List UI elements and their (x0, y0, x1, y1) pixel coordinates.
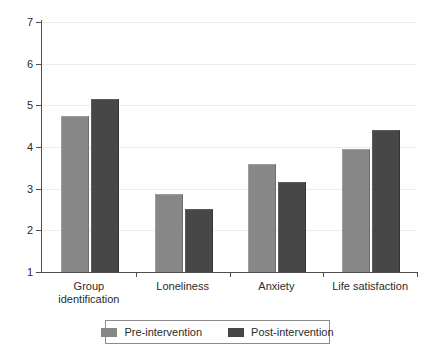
x-axis-label-loneliness: Loneliness (136, 280, 230, 293)
x-tick-mark-3 (417, 273, 418, 277)
y-tick-mark-4 (36, 147, 41, 148)
bar-group-identification-pre-intervention (61, 116, 89, 272)
x-axis-label-life-satisfaction: Life satisfaction (323, 280, 417, 293)
y-tick-label-7: 7 (3, 17, 33, 28)
x-axis-label-group-identification: Group identification (42, 280, 136, 306)
plot-area (42, 22, 417, 272)
legend-entry-pre-intervention: Pre-intervention (101, 327, 202, 338)
bar-life-satisfaction-pre-intervention (342, 149, 370, 272)
bar-life-satisfaction-post-intervention (372, 130, 400, 272)
legend-entry-post-intervention: Post-intervention (228, 327, 334, 338)
pre-intervention-swatch-icon (101, 328, 117, 337)
y-tick-mark-6 (36, 64, 41, 65)
x-tick-mark-0 (136, 273, 137, 277)
y-tick-label-4: 4 (3, 142, 33, 153)
y-tick-label-1: 1 (3, 267, 33, 278)
y-tick-mark-5 (36, 105, 41, 106)
post-intervention-swatch-icon (228, 328, 244, 337)
bar-loneliness-post-intervention (185, 209, 213, 273)
x-tick-mark-1 (230, 273, 231, 277)
bar-group-identification-post-intervention (91, 99, 119, 272)
y-tick-mark-1 (36, 272, 41, 273)
y-tick-label-6: 6 (3, 58, 33, 69)
y-tick-label-3: 3 (3, 183, 33, 194)
y-tick-mark-2 (36, 230, 41, 231)
bar-group-anxiety (248, 22, 304, 272)
bar-loneliness-pre-intervention (155, 194, 183, 272)
legend-label-pre-intervention: Pre-intervention (124, 327, 202, 338)
x-tick-mark-2 (323, 273, 324, 277)
y-tick-mark-7 (36, 22, 41, 23)
y-axis-tick-labels: 1234567 (0, 0, 33, 300)
y-tick-mark-3 (36, 189, 41, 190)
x-axis-label-anxiety: Anxiety (230, 280, 324, 293)
bar-group-group-identification (61, 22, 117, 272)
y-tick-label-2: 2 (3, 225, 33, 236)
chart-legend: Pre-intervention Post-intervention (105, 320, 330, 344)
y-tick-label-5: 5 (3, 100, 33, 111)
bar-group-loneliness (155, 22, 211, 272)
bar-anxiety-pre-intervention (248, 164, 276, 272)
bar-anxiety-post-intervention (278, 182, 306, 272)
bar-group-life-satisfaction (342, 22, 398, 272)
grouped-bar-chart: 1234567 Group identificationLonelinessAn… (0, 0, 429, 358)
legend-label-post-intervention: Post-intervention (251, 327, 334, 338)
